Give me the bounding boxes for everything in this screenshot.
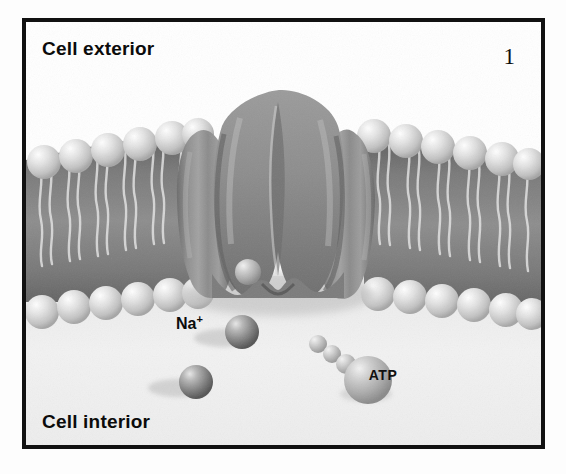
- diagram-panel: ATP Na+ Cell exterior Cell interior 1: [22, 18, 545, 449]
- membrane-illustration: [26, 22, 541, 445]
- sodium-ion-label: Na+: [176, 313, 203, 333]
- figure-root: ATP Na+ Cell exterior Cell interior 1: [0, 0, 566, 474]
- sodium-ion-upper: [194, 315, 259, 349]
- cell-interior-label: Cell interior: [42, 411, 150, 433]
- panel-number: 1: [504, 44, 516, 70]
- sodium-charge: +: [196, 313, 202, 325]
- atp-label: ATP: [360, 367, 406, 383]
- sodium-ion-lower: [148, 365, 213, 399]
- sodium-ion-bound: [235, 259, 261, 285]
- atp-label-wrap: ATP: [360, 367, 406, 413]
- cell-exterior-label: Cell exterior: [42, 38, 154, 60]
- sodium-symbol: Na: [176, 315, 196, 332]
